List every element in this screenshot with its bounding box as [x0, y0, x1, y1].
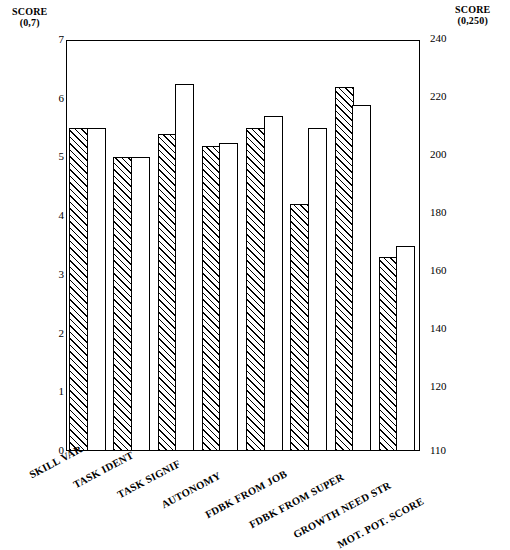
category-label-0: SKILL VAR	[27, 443, 83, 480]
